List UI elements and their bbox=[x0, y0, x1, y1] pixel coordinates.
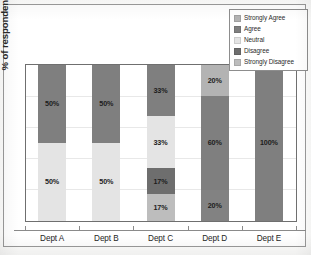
legend-item[interactable]: Strongly Agree bbox=[234, 13, 305, 24]
bar-column: 100% bbox=[242, 65, 296, 221]
x-axis-tick-label: Dept A bbox=[25, 232, 79, 246]
bar-segment[interactable]: 100% bbox=[255, 65, 283, 221]
bar-segment-value-label: 100% bbox=[260, 139, 278, 146]
legend-item[interactable]: Agree bbox=[234, 24, 305, 35]
bar-column: 50%50% bbox=[25, 65, 79, 221]
bar-segment-value-label: 20% bbox=[208, 77, 222, 84]
x-axis-tick-label: Dept E bbox=[242, 232, 296, 246]
legend-swatch-icon bbox=[234, 15, 241, 22]
bar-column: 33%33%17%17% bbox=[133, 65, 187, 221]
bar-segment[interactable]: 33% bbox=[147, 65, 175, 116]
bar-segment-value-label: 50% bbox=[45, 178, 59, 185]
x-axis-tick bbox=[79, 226, 80, 231]
x-axis-tick bbox=[188, 226, 189, 231]
x-axis-tick bbox=[133, 226, 134, 231]
legend-swatch-icon bbox=[234, 37, 241, 44]
legend-item[interactable]: Strongly Disagree bbox=[234, 57, 305, 68]
x-axis-tick bbox=[25, 226, 26, 231]
y-axis-title: % of respondents bbox=[0, 0, 10, 96]
legend-item-label: Strongly Agree bbox=[244, 15, 285, 21]
bar-segment[interactable]: 50% bbox=[92, 65, 120, 143]
bar-segment-value-label: 50% bbox=[45, 100, 59, 107]
legend-swatch-icon bbox=[234, 59, 241, 66]
bar-segment-value-label: 50% bbox=[99, 178, 113, 185]
bar-series-container: 50%50%50%50%33%33%17%17%20%60%20%100% bbox=[25, 65, 296, 221]
bar-stack[interactable]: 50%50% bbox=[92, 65, 120, 221]
bar-segment[interactable]: 17% bbox=[147, 194, 175, 221]
x-axis-tick bbox=[242, 226, 243, 231]
bar-segment-value-label: 60% bbox=[208, 139, 222, 146]
x-axis-labels: Dept ADept BDept CDept DDept E bbox=[25, 232, 296, 246]
bar-segment[interactable]: 17% bbox=[147, 168, 175, 195]
x-axis-line bbox=[14, 230, 306, 231]
bar-stack[interactable]: 33%33%17%17% bbox=[147, 65, 175, 221]
legend-item[interactable]: Disagree bbox=[234, 46, 305, 57]
legend-swatch-icon bbox=[234, 26, 241, 33]
legend-item-label: Agree bbox=[244, 26, 261, 32]
x-axis-tick-label: Dept B bbox=[79, 232, 133, 246]
bar-column: 20%60%20% bbox=[188, 65, 242, 221]
legend-item-label: Disagree bbox=[244, 48, 269, 54]
bar-segment-value-label: 33% bbox=[153, 139, 167, 146]
bar-segment[interactable]: 60% bbox=[201, 96, 229, 190]
bar-segment-value-label: 33% bbox=[153, 87, 167, 94]
legend-item[interactable]: Neutral bbox=[234, 35, 305, 46]
bar-segment[interactable]: 50% bbox=[38, 143, 66, 221]
bar-segment-value-label: 50% bbox=[99, 100, 113, 107]
bar-segment[interactable]: 20% bbox=[201, 190, 229, 221]
legend-item-label: Neutral bbox=[244, 37, 264, 43]
scanned-page: % of respondents 50%50%50%50%33%33%17%17… bbox=[0, 0, 311, 255]
bar-segment[interactable]: 20% bbox=[201, 65, 229, 96]
bar-stack[interactable]: 20%60%20% bbox=[201, 65, 229, 221]
bar-column: 50%50% bbox=[79, 65, 133, 221]
bar-segment-value-label: 17% bbox=[153, 204, 167, 211]
x-axis-tick bbox=[296, 226, 297, 231]
bar-segment-value-label: 17% bbox=[153, 178, 167, 185]
legend-item-label: Strongly Disagree bbox=[244, 59, 294, 65]
legend-swatch-icon bbox=[234, 48, 241, 55]
bar-segment-value-label: 20% bbox=[208, 202, 222, 209]
bar-segment[interactable]: 50% bbox=[38, 65, 66, 143]
bar-segment[interactable]: 33% bbox=[147, 116, 175, 167]
bar-segment[interactable]: 50% bbox=[92, 143, 120, 221]
bar-stack[interactable]: 50%50% bbox=[38, 65, 66, 221]
bar-stack[interactable]: 100% bbox=[255, 65, 283, 221]
chart-legend[interactable]: Strongly AgreeAgreeNeutralDisagreeStrong… bbox=[229, 9, 308, 71]
x-axis-tick-label: Dept C bbox=[133, 232, 187, 246]
x-axis-tick-label: Dept D bbox=[188, 232, 242, 246]
